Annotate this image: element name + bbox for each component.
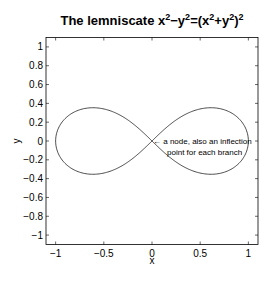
y-tick-label: 0.4 bbox=[29, 98, 43, 109]
y-tick-label: 0.2 bbox=[29, 117, 43, 128]
chart-title: The lemniscate x2−y2=(x2+y2)2 bbox=[60, 12, 243, 28]
x-tick-label: 1 bbox=[246, 248, 252, 259]
y-tick-label: 1 bbox=[37, 41, 43, 52]
lemniscate-chart: The lemniscate x2−y2=(x2+y2)2 −1−0.500.5… bbox=[0, 0, 271, 282]
x-tick-label: −1 bbox=[50, 248, 62, 259]
y-tick-label: −0.8 bbox=[23, 211, 43, 222]
y-tick-label: −0.4 bbox=[23, 173, 43, 184]
y-tick-label: 0.8 bbox=[29, 60, 43, 71]
y-tick-label: −1 bbox=[32, 230, 44, 241]
x-tick-label: −0.5 bbox=[94, 248, 114, 259]
y-axis-label: y bbox=[11, 139, 22, 144]
x-tick-label: 0.5 bbox=[193, 248, 207, 259]
x-axis-label: x bbox=[150, 255, 155, 266]
annotation-line-2: point for each branch bbox=[167, 148, 242, 157]
annotation-line-1: ← a node, also an inflection bbox=[153, 137, 252, 146]
y-tick-label: −0.6 bbox=[23, 192, 43, 203]
y-tick-label: −0.2 bbox=[23, 154, 43, 165]
y-tick-label: 0.6 bbox=[29, 79, 43, 90]
y-tick-label: 0 bbox=[37, 136, 43, 147]
